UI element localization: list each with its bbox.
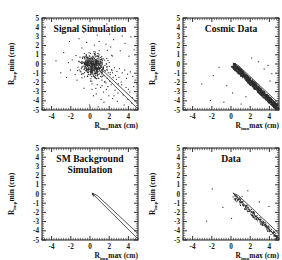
y-tick-label: 2 <box>176 42 180 50</box>
y-tick-label: 5 <box>35 15 39 23</box>
x-axis-title: Rimpmax (cm) <box>236 121 280 130</box>
y-tick-label: -4 <box>33 227 39 235</box>
panel-title-line: SM Background <box>56 153 124 164</box>
y-tick-label: -4 <box>174 227 180 235</box>
y-tick-label: 0 <box>35 61 39 69</box>
y-tick-label: -3 <box>174 218 180 226</box>
x-axis-title: Rimpmax (cm) <box>95 251 139 260</box>
y-tick-label: 1 <box>176 181 180 189</box>
x-tick-label: -2 <box>68 113 74 121</box>
y-tick-label: 0 <box>176 61 180 69</box>
x-tick-labels: -4-2024 <box>190 113 272 121</box>
y-tick-label: 3 <box>35 33 39 41</box>
y-tick-label: 1 <box>35 51 39 59</box>
x-tick-label: -2 <box>68 243 74 251</box>
plot-0: -4-2024543210-1-2-3-4-5Signal Simulation… <box>0 0 141 130</box>
panel-title-line: Signal Simulation <box>54 23 127 34</box>
x-tick-label: 4 <box>127 243 131 251</box>
y-tick-label: -5 <box>33 237 39 245</box>
y-tick-labels: 543210-1-2-3-4-5 <box>33 145 39 245</box>
x-tick-label: -4 <box>190 113 196 121</box>
panel-title: Signal Simulation <box>54 23 127 34</box>
plot-1: -4-2024543210-1-2-3-4-5Cosmic DataRimpma… <box>141 0 282 130</box>
y-tick-label: -1 <box>174 200 180 208</box>
svg-text:Rimpmin (cm): Rimpmin (cm) <box>148 42 158 85</box>
y-axis-title: Rimpmin (cm) <box>148 42 158 85</box>
y-tick-label: 3 <box>35 163 39 171</box>
y-tick-label: 4 <box>35 154 39 162</box>
y-tick-label: -5 <box>174 237 180 245</box>
svg-text:Rimpmin (cm): Rimpmin (cm) <box>7 42 17 85</box>
x-tick-label: -2 <box>209 243 215 251</box>
x-tick-label: 0 <box>88 243 92 251</box>
x-tick-labels: -4-2024 <box>190 243 272 251</box>
y-tick-label: -1 <box>33 70 39 78</box>
x-tick-labels: -4-2024 <box>49 243 131 251</box>
y-tick-labels: 543210-1-2-3-4-5 <box>174 145 180 245</box>
x-tick-label: 2 <box>107 113 111 121</box>
y-tick-label: 4 <box>176 24 180 32</box>
y-tick-label: -3 <box>33 218 39 226</box>
y-tick-label: -5 <box>33 107 39 115</box>
y-tick-label: 4 <box>35 24 39 32</box>
y-axis-title: Rimpmin (cm) <box>148 172 158 215</box>
y-tick-labels: 543210-1-2-3-4-5 <box>174 15 180 115</box>
y-tick-label: 5 <box>176 145 180 153</box>
y-tick-label: 2 <box>35 42 39 50</box>
x-tick-label: 2 <box>248 113 252 121</box>
panel-title: Data <box>221 153 241 164</box>
y-tick-label: 2 <box>35 172 39 180</box>
y-tick-label: -2 <box>174 79 180 87</box>
x-tick-label: -4 <box>190 243 196 251</box>
x-tick-label: 2 <box>248 243 252 251</box>
x-tick-label: 4 <box>127 113 131 121</box>
y-tick-label: 3 <box>176 163 180 171</box>
panel-cosmic-data: -4-2024543210-1-2-3-4-5Cosmic DataRimpma… <box>141 0 282 130</box>
panel-sm-background-simulation: -4-2024543210-1-2-3-4-5SM BackgroundSimu… <box>0 130 141 260</box>
x-axis-title: Rimpmax (cm) <box>95 121 139 130</box>
panel-title-line: Data <box>221 153 241 164</box>
y-tick-label: -4 <box>33 97 39 105</box>
panel-title-line: Cosmic Data <box>205 23 258 34</box>
svg-text:Rimpmin (cm): Rimpmin (cm) <box>148 172 158 215</box>
y-tick-label: -3 <box>33 88 39 96</box>
panel-title-line: Simulation <box>68 164 113 175</box>
x-axis-title: Rimpmax (cm) <box>236 251 280 260</box>
y-tick-label: -1 <box>33 200 39 208</box>
y-tick-label: -3 <box>174 88 180 96</box>
x-tick-label: -2 <box>209 113 215 121</box>
y-axis-title: Rimpmin (cm) <box>7 42 17 85</box>
y-tick-label: 2 <box>176 172 180 180</box>
y-tick-label: -2 <box>33 79 39 87</box>
panel-signal-simulation: -4-2024543210-1-2-3-4-5Signal Simulation… <box>0 0 141 130</box>
x-tick-labels: -4-2024 <box>49 113 131 121</box>
x-tick-label: 0 <box>229 243 233 251</box>
y-tick-label: -1 <box>174 70 180 78</box>
x-tick-label: 4 <box>268 243 272 251</box>
y-tick-label: -2 <box>33 209 39 217</box>
y-tick-label: -5 <box>174 107 180 115</box>
x-tick-label: 0 <box>229 113 233 121</box>
y-tick-label: -2 <box>174 209 180 217</box>
y-axis-title: Rimpmin (cm) <box>7 172 17 215</box>
figure-grid: -4-2024543210-1-2-3-4-5Signal Simulation… <box>0 0 282 260</box>
y-tick-label: 5 <box>176 15 180 23</box>
y-tick-label: 3 <box>176 33 180 41</box>
x-tick-label: -4 <box>49 243 55 251</box>
panel-data: -4-2024543210-1-2-3-4-5DataRimpmax (cm)R… <box>141 130 282 260</box>
x-tick-label: -4 <box>49 113 55 121</box>
y-tick-label: 1 <box>176 51 180 59</box>
x-tick-label: 4 <box>268 113 272 121</box>
y-tick-label: 1 <box>35 181 39 189</box>
plot-2: -4-2024543210-1-2-3-4-5SM BackgroundSimu… <box>0 130 141 260</box>
y-tick-label: 4 <box>176 154 180 162</box>
y-tick-label: 5 <box>35 145 39 153</box>
x-tick-label: 0 <box>88 113 92 121</box>
x-tick-label: 2 <box>107 243 111 251</box>
y-tick-label: 0 <box>176 191 180 199</box>
panel-title: Cosmic Data <box>205 23 258 34</box>
svg-text:Rimpmin (cm): Rimpmin (cm) <box>7 172 17 215</box>
y-tick-label: 0 <box>35 191 39 199</box>
plot-3: -4-2024543210-1-2-3-4-5DataRimpmax (cm)R… <box>141 130 282 260</box>
y-tick-labels: 543210-1-2-3-4-5 <box>33 15 39 115</box>
